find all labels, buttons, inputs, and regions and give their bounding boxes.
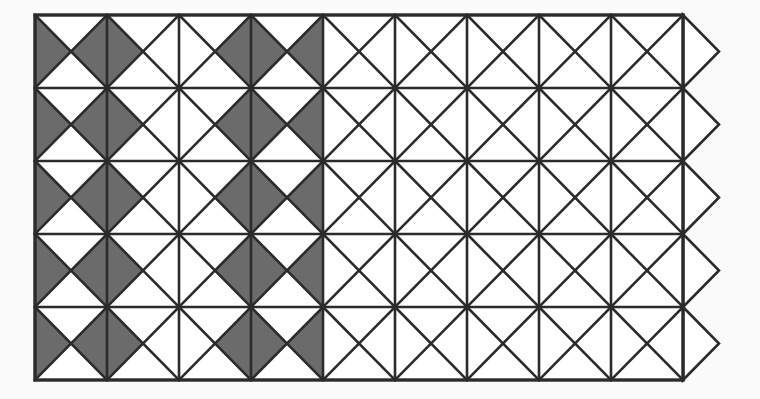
tessellation-pattern: Tessellated square grid of diagonally di…: [0, 0, 760, 399]
figure-root: Tessellated square grid of diagonally di…: [0, 0, 760, 399]
